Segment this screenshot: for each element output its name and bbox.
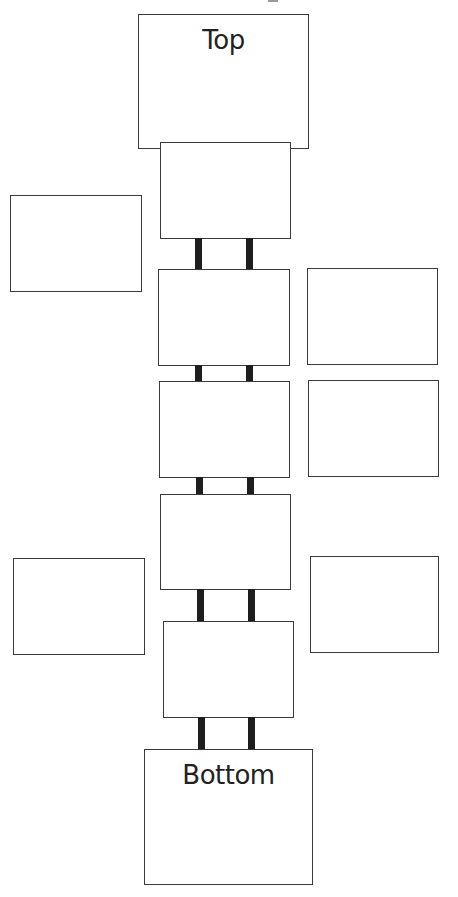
spine-box-2 [158,269,290,366]
top-label: Top [139,25,308,55]
spine-box-3 [159,381,290,478]
spine-box-4 [160,494,291,590]
connector-right-5 [248,717,255,750]
top-box: Top [138,14,309,149]
connector-right-2 [246,365,253,382]
left-side-box-2 [13,558,145,655]
connector-left-2 [195,365,202,382]
connector-right-1 [246,238,253,270]
connector-right-4 [248,589,255,622]
spine-box-5 [163,621,294,718]
bottom-box: Bottom [144,749,313,885]
connector-right-3 [247,477,254,495]
connector-left-3 [196,477,203,495]
right-side-box-1 [307,268,438,365]
right-side-box-3 [310,556,439,653]
connector-left-5 [198,717,205,750]
bottom-label: Bottom [145,760,312,790]
connector-left-1 [195,238,202,270]
right-side-box-2 [308,380,439,477]
left-side-box-1 [10,195,142,292]
clipped-title-fragment [268,0,278,2]
connector-left-4 [197,589,204,622]
spine-box-1 [160,142,291,239]
